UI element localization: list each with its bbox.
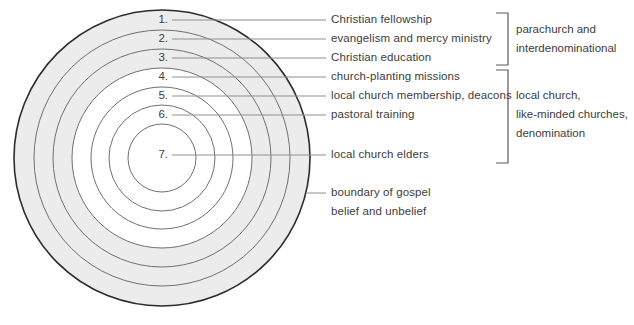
group-label-local-church-line-1: local church, [516,86,628,105]
ring-number-3: 3. [146,51,168,63]
ring-number-1: 1. [146,13,168,25]
boundary-note-line-2: belief and unbelief [331,205,426,218]
ring-number-2: 2. [146,32,168,44]
group-label-parachurch-line-2: interdenominational [516,39,616,58]
ring-number-4: 4. [146,70,168,82]
ring-label-6: pastoral training [331,108,415,121]
ring-label-7: local church elders [331,148,429,161]
ring-label-1: Christian fellowship [331,13,432,26]
group-label-local-church-line-3: denomination [516,124,628,143]
boundary-note-line-1: boundary of gospel [331,186,431,199]
bracket-parachurch [496,13,508,65]
group-label-local-church-line-2: like-minded churches, [516,105,628,124]
bracket-local-church [496,70,508,163]
group-label-parachurch: parachurch and interdenominational [516,20,616,58]
group-label-local-church: local church, like-minded churches, deno… [516,86,628,143]
ring-number-7: 7. [146,148,168,160]
ring-label-3: Christian education [331,51,431,64]
ring-number-6: 6. [146,108,168,120]
group-label-parachurch-line-1: parachurch and [516,20,616,39]
ring-number-5: 5. [146,89,168,101]
diagram-canvas: 1. 2. 3. 4. 5. 6. 7. Christian fellowshi… [0,0,634,325]
ring-label-5: local church membership, deacons [331,89,512,102]
ring-label-2: evangelism and mercy ministry [331,32,492,45]
ring-label-4: church-planting missions [331,70,460,83]
group-brackets [496,13,508,163]
